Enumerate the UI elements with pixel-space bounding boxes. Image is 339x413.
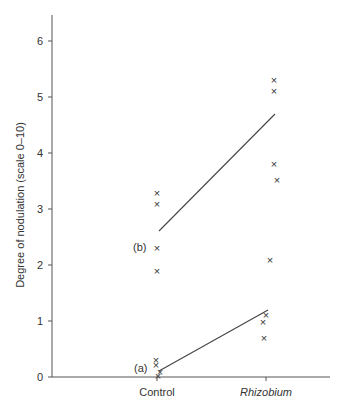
x-category-control: Control: [139, 386, 174, 398]
svg-text:×: ×: [261, 332, 267, 344]
y-tick-4: 4: [37, 147, 43, 159]
markers-control-b: × × × ×: [154, 187, 160, 277]
y-tick-3: 3: [37, 203, 43, 215]
y-tick-5: 5: [37, 91, 43, 103]
y-ticks: [48, 41, 52, 377]
y-tick-6: 6: [37, 35, 43, 47]
chart: 0 1 2 3 4 5 6 Degree of nodulation (scal…: [0, 0, 339, 413]
y-tick-0: 0: [37, 371, 43, 383]
svg-text:×: ×: [154, 265, 160, 277]
y-axis-label: Degree of nodulation (scale 0–10): [14, 122, 26, 288]
markers-rhizobium-b: × × × × ×: [267, 74, 280, 266]
markers-control-a: × × × ×: [153, 354, 163, 382]
trend-line-a: [159, 310, 268, 371]
svg-text:×: ×: [271, 85, 277, 97]
svg-text:×: ×: [274, 174, 280, 186]
svg-text:×: ×: [267, 254, 273, 266]
svg-text:×: ×: [154, 242, 160, 254]
y-tick-1: 1: [37, 315, 43, 327]
svg-text:×: ×: [155, 370, 161, 382]
trend-line-b: [159, 114, 275, 231]
annotation-a: (a): [134, 362, 147, 374]
svg-text:×: ×: [260, 316, 266, 328]
y-tick-2: 2: [37, 259, 43, 271]
annotation-b: (b): [133, 241, 146, 253]
svg-text:×: ×: [154, 198, 160, 210]
svg-text:×: ×: [271, 158, 277, 170]
y-tick-labels: 0 1 2 3 4 5 6: [37, 35, 43, 383]
x-category-rhizobium: Rhizobium: [240, 386, 292, 398]
